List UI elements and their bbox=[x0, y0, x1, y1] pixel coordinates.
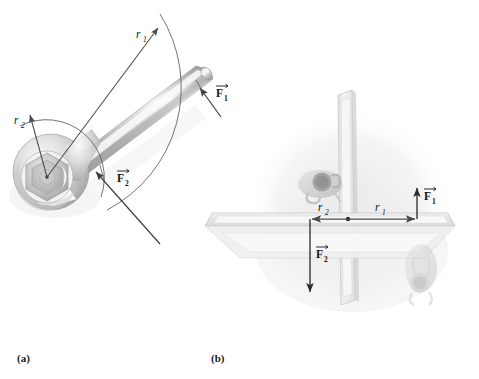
label-F2-b-letter: F bbox=[316, 248, 323, 260]
label-F2-a-sub: 2 bbox=[125, 179, 129, 188]
person-at-rim bbox=[405, 244, 437, 305]
caption-panel-a: (a) bbox=[17, 352, 30, 364]
label-r2-b-sub: 2 bbox=[325, 208, 329, 217]
caption-panel-b: (b) bbox=[211, 352, 224, 364]
label-F2-a-letter: F bbox=[117, 172, 124, 184]
label-r1-b-sub: 1 bbox=[382, 208, 386, 217]
label-F1-b-letter: F bbox=[424, 190, 431, 202]
label-F2-b-sub: 2 bbox=[324, 255, 328, 264]
label-r1-a-letter: r bbox=[136, 28, 141, 40]
panel-a: r 1 r 2 F 1 F 2 bbox=[9, 14, 228, 244]
label-r1-a-sub: 1 bbox=[143, 35, 147, 44]
label-r1-b-letter: r bbox=[375, 201, 380, 213]
label-F1-a: F 1 bbox=[216, 84, 228, 103]
panel-b: r 1 r 2 F 1 F 2 bbox=[205, 90, 455, 317]
label-F1-a-letter: F bbox=[216, 87, 223, 99]
torque-figure: r 1 r 2 F 1 F 2 bbox=[0, 0, 479, 379]
label-r2-a: r 2 bbox=[14, 114, 25, 130]
label-F1-b-sub: 1 bbox=[432, 197, 436, 206]
label-r1-a: r 1 bbox=[136, 28, 147, 44]
figure-canvas: r 1 r 2 F 1 F 2 bbox=[0, 0, 479, 379]
label-F1-a-sub: 1 bbox=[224, 94, 228, 103]
door-panel-vertical bbox=[338, 90, 359, 305]
label-r2-a-letter: r bbox=[14, 114, 19, 126]
label-r2-b-letter: r bbox=[318, 201, 323, 213]
label-r2-a-sub: 2 bbox=[21, 121, 25, 130]
label-F2-a: F 2 bbox=[117, 169, 129, 188]
